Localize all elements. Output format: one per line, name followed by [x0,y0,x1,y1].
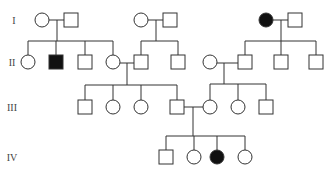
unaffected-female-II-4 [106,55,120,69]
unaffected-female-III-6 [231,100,245,114]
generation-label-I: I [12,15,15,26]
relationship-lines [28,20,316,150]
unaffected-male-II-10 [309,55,323,69]
generation-label-IV: IV [7,152,18,163]
generation-label-III: III [7,102,17,113]
unaffected-male-II-9 [274,55,288,69]
unaffected-female-III-5 [203,100,217,114]
unaffected-female-I-1 [35,13,49,27]
affected-female-IV-3 [210,150,224,164]
pedigree-canvas [0,0,333,174]
unaffected-female-III-3 [134,100,148,114]
unaffected-male-IV-1 [159,150,173,164]
affected-male-II-2 [49,55,63,69]
unaffected-male-II-6 [171,55,185,69]
unaffected-male-II-5 [134,55,148,69]
unaffected-male-III-4 [170,100,184,114]
unaffected-female-I-3 [134,13,148,27]
individuals [21,13,323,164]
unaffected-male-I-4 [163,13,177,27]
unaffected-female-II-1 [21,55,35,69]
unaffected-male-III-7 [259,100,273,114]
unaffected-male-I-2 [64,13,78,27]
unaffected-male-III-1 [78,100,92,114]
unaffected-female-IV-4 [238,150,252,164]
unaffected-female-IV-2 [187,150,201,164]
unaffected-male-I-6 [288,13,302,27]
generation-label-II: II [9,57,16,68]
unaffected-female-II-7 [203,55,217,69]
unaffected-male-II-8 [238,55,252,69]
unaffected-female-III-2 [106,100,120,114]
unaffected-male-II-3 [78,55,92,69]
affected-female-I-5 [259,13,273,27]
pedigree-chart: IIIIIIIV [0,0,333,174]
